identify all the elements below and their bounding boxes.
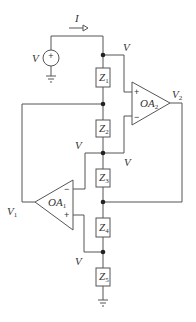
impedance-z3: Z3 [96,169,110,187]
opamp-oa1: − + OA1 [35,180,73,230]
node-label-v-bottom: V [75,255,83,267]
svg-text:+: + [64,210,69,220]
opamp-oa2: + − OA2 [132,82,170,125]
svg-text:−: − [134,112,139,122]
current-arrow: I [69,12,88,31]
voltage-source: + V [32,50,59,66]
ground-icon [46,76,56,82]
impedance-z2: Z2 [96,120,110,137]
circuit-diagram: + V I Z1 Z2 Z3 Z4 Z5 + − [0,0,196,322]
source-plus-sign: + [48,51,53,61]
svg-text:−: − [64,184,69,194]
svg-text:+: + [134,87,139,97]
node-label-v2: V2 [172,88,183,102]
node-label-v-top: V [123,41,131,53]
current-label: I [74,12,80,24]
node-label-v-mid-right: V [124,156,132,168]
impedance-z5: Z5 [96,268,110,286]
impedance-z1: Z1 [96,68,110,87]
node-label-v-mid-left: V [75,139,83,151]
node-label-v1: V1 [7,205,18,219]
source-label: V [32,52,40,64]
ground-icon [98,300,108,306]
impedance-z4: Z4 [96,218,110,237]
